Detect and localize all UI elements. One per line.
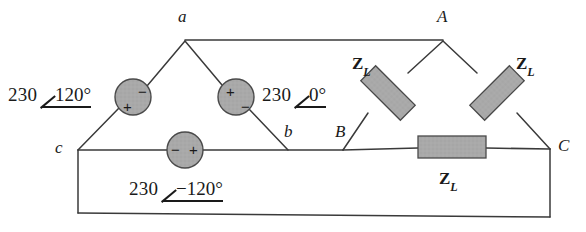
phasor-ca-magnitude: 230 [8,84,37,106]
wire-a-to-sourceab [185,41,222,85]
phasor-ab-magnitude: 230 [262,84,291,106]
impedance-ab-label: ZL [352,54,371,77]
source-bc-plus-sign: + [189,142,198,157]
wire-A-to-impedanceca [443,41,477,73]
source-ca-minus-sign: − [138,84,147,99]
impedance-ab-symbol: Z [352,54,363,73]
wire-outer-bottom [78,213,550,217]
node-label-B: B [335,122,345,142]
impedance-ca-label: ZL [516,54,535,77]
impedance-ca-subscript: L [527,65,534,79]
phasor-ab-angle-symbol: 0° [296,84,326,109]
phasor-bc-magnitude: 230 [129,178,158,200]
wire-c-to-sourceca [78,108,119,150]
impedance-boxes [361,66,524,158]
phasor-bc-angle-symbol: −120° [163,178,223,203]
impedance-ca-symbol: Z [516,54,527,73]
impedance-bc-box [418,136,486,158]
phasor-ca-angle-value: 120° [55,84,91,109]
phasor-ab-angle-value: 0° [309,84,326,109]
impedance-bc-subscript: L [450,180,457,194]
wire-B-to-impedancebc [343,148,418,150]
circuit-schematic-svg [0,0,586,232]
node-label-b: b [284,122,293,142]
wire-sourceca-to-a [147,41,185,86]
wire-impedanceca-to-C [517,113,550,149]
source-ca-plus-sign: + [123,99,132,114]
impedance-bc-symbol: Z [439,169,450,188]
node-label-A: A [437,7,447,27]
circuit-diagram: a b c A B C + − + − + − 230 120° 230 0° … [0,0,586,232]
source-bc-minus-sign: − [171,142,180,157]
wire-impedancebc-to-C [486,148,550,149]
source-ab-plus-sign: + [226,84,235,99]
wire-B-to-impedanceab [343,113,368,150]
node-label-c: c [55,138,63,158]
wire-impedanceab-to-A [408,41,443,73]
impedance-ab-subscript: L [363,65,370,79]
phasor-label-bc: 230 −120° [129,178,223,203]
phasor-label-ab: 230 0° [262,84,326,109]
phasor-label-ca: 230 120° [8,84,91,109]
node-label-a: a [178,7,187,27]
phasor-bc-angle-value: −120° [176,178,223,203]
wire-sourceab-to-b [249,109,288,150]
impedance-bc-label: ZL [439,169,458,192]
source-ab-minus-sign: − [241,99,250,114]
phasor-ca-angle-symbol: 120° [42,84,91,109]
node-label-C: C [558,136,569,156]
